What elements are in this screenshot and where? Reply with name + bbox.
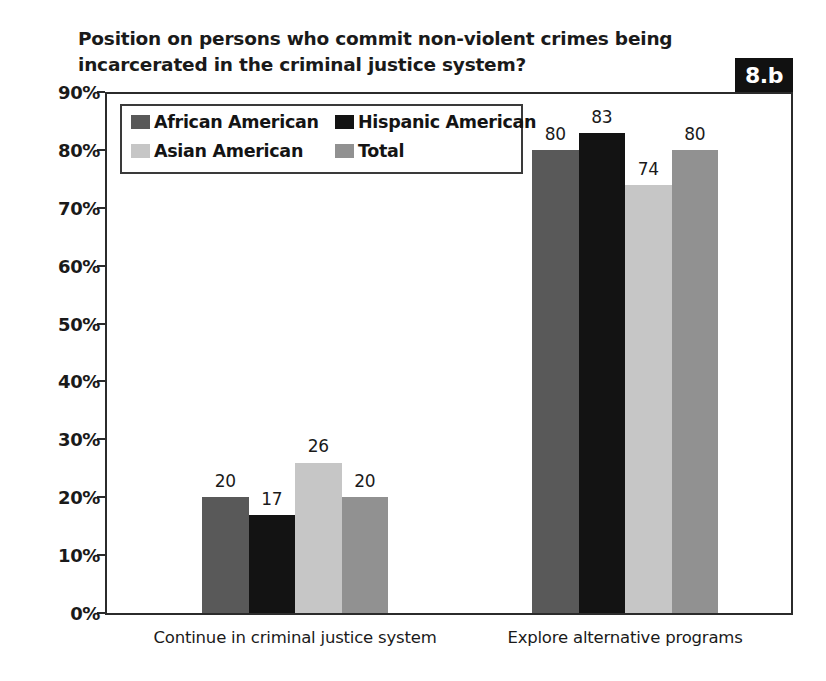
chart-title: Position on persons who commit non-viole… [78, 26, 718, 78]
legend-swatch-icon [335, 144, 354, 158]
bar-value-label: 74 [619, 159, 678, 179]
figure-number-badge: 8.b [735, 58, 793, 92]
bar [625, 185, 672, 613]
legend-label: Hispanic American [358, 112, 536, 132]
y-axis-tick-label: 90% [30, 82, 100, 103]
bar-value-label: 26 [289, 436, 348, 456]
bar [342, 497, 389, 613]
legend-item: African American [131, 112, 319, 132]
bar-value-label: 83 [573, 107, 632, 127]
legend-label: African American [154, 112, 319, 132]
bar-value-label: 17 [243, 489, 302, 509]
bar [249, 515, 296, 613]
bar [672, 150, 719, 613]
legend-item: Hispanic American [335, 112, 536, 132]
y-axis-tick-label: 60% [30, 255, 100, 276]
y-axis-tick-label: 0% [30, 603, 100, 624]
y-axis-tick-label: 80% [30, 139, 100, 160]
x-axis-category-label: Explore alternative programs [455, 628, 795, 647]
y-axis-tick-label: 40% [30, 371, 100, 392]
legend-swatch-icon [335, 115, 354, 129]
y-axis-tick-label: 20% [30, 487, 100, 508]
y-axis-tick-label: 10% [30, 545, 100, 566]
chart-legend: African AmericanHispanic AmericanAsian A… [120, 104, 523, 174]
bar-value-label: 20 [336, 471, 395, 491]
legend-swatch-icon [131, 115, 150, 129]
bar [579, 133, 626, 613]
bar-value-label: 80 [666, 124, 725, 144]
legend-label: Asian American [154, 141, 303, 161]
legend-swatch-icon [131, 144, 150, 158]
legend-label: Total [358, 141, 404, 161]
bar [202, 497, 249, 613]
x-axis-category-label: Continue in criminal justice system [125, 628, 465, 647]
bar [532, 150, 579, 613]
legend-item: Total [335, 141, 404, 161]
y-axis-tick-label: 50% [30, 313, 100, 334]
y-axis-labels: 90%80%70%60%50%40%30%20%10%0% [20, 92, 100, 615]
y-axis-tick-label: 30% [30, 429, 100, 450]
y-axis-tick-label: 70% [30, 197, 100, 218]
legend-item: Asian American [131, 141, 303, 161]
